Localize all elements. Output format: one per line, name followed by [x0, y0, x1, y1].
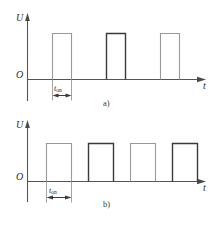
pulse-train-a: [53, 34, 180, 80]
waveform-panel-b: U O t ton b): [0, 112, 216, 212]
x-axis-label-b: t: [203, 183, 206, 193]
figure-root: U O t ton a): [0, 0, 216, 231]
waveform-plot-a: [0, 0, 216, 112]
origin-label-a: O: [16, 70, 23, 80]
ton-label-b: ton: [49, 187, 57, 195]
ton-label-a: ton: [54, 85, 62, 93]
pulse-1: [53, 34, 72, 80]
panel-caption-a: a): [103, 99, 110, 108]
y-axis-label-a: U: [16, 13, 23, 23]
panel-caption-b: b): [103, 200, 110, 209]
y-axis-a: [25, 13, 30, 101]
pulse-2: [89, 144, 114, 182]
pulse-2: [107, 34, 126, 80]
pulse-1: [47, 144, 72, 182]
ton-sub-a: on: [56, 87, 61, 93]
pulse-train-b: [47, 144, 198, 182]
x-axis-label-a: t: [203, 81, 206, 91]
y-axis-b: [25, 120, 30, 202]
pulse-3: [131, 144, 156, 182]
y-axis-label-b: U: [16, 120, 23, 130]
pulse-3: [161, 34, 180, 80]
pulse-4: [173, 144, 198, 182]
origin-label-b: O: [16, 172, 23, 182]
waveform-plot-b: [0, 112, 216, 212]
ton-sub-b: on: [51, 189, 56, 195]
waveform-panel-a: U O t ton a): [0, 0, 216, 112]
x-axis-b: [28, 179, 207, 184]
